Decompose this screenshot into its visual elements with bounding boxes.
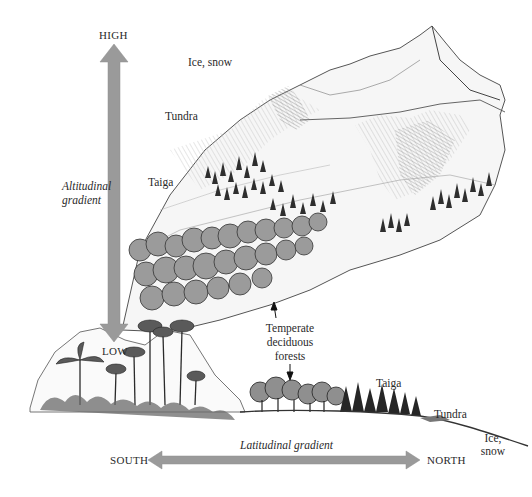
latitudinal-title: Latitudinal gradient [240, 439, 333, 452]
lowland-taiga-label: Taiga [376, 377, 401, 390]
illustration [0, 0, 532, 497]
mountain-taiga-label: Taiga [148, 176, 173, 189]
lowland-ice-label-line1: Ice, [476, 432, 510, 445]
south-label: SOUTH [110, 454, 148, 467]
biome-gradient-diagram: HIGH Altitudinal gradient LOW Ice, snow … [0, 0, 532, 497]
high-label: HIGH [99, 29, 128, 42]
tropical-lowland [30, 320, 245, 420]
altitudinal-title-line1: Altitudinal [62, 180, 100, 193]
temperate-label-line2: deciduous [252, 336, 328, 349]
temperate-label-line3: forests [252, 350, 328, 363]
altitudinal-arrow [100, 44, 128, 342]
lowland-tundra-label: Tundra [434, 408, 467, 421]
mountain-ice-snow-label: Ice, snow [188, 56, 232, 69]
latitudinal-arrow [148, 451, 420, 469]
north-label: NORTH [427, 454, 466, 467]
low-label: LOW [102, 345, 128, 358]
mountain-tundra-label: Tundra [165, 110, 198, 123]
temperate-label-line1: Temperate [252, 322, 328, 335]
altitudinal-title-line2: gradient [62, 194, 96, 207]
lowland-ice-label-line2: snow [476, 445, 510, 458]
